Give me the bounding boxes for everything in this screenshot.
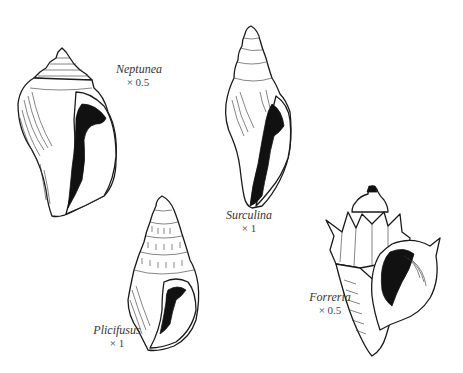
- forreria-shell-drawing: [326, 186, 440, 356]
- forreria-scale: × 0.5: [308, 304, 352, 317]
- forreria-name: Forreria: [308, 291, 352, 304]
- surculina-name: Surculina: [224, 209, 274, 222]
- neptunea-label: Neptunea × 0.5: [116, 63, 160, 89]
- neptunea-scale: × 0.5: [116, 76, 160, 89]
- surculina-scale: × 1: [224, 222, 274, 235]
- forreria-label: Forreria × 0.5: [308, 291, 352, 317]
- neptunea-name: Neptunea: [116, 63, 160, 76]
- plicifusus-label: Plicifusus × 1: [92, 324, 142, 350]
- surculina-label: Surculina × 1: [224, 209, 274, 235]
- plicifusus-scale: × 1: [92, 337, 142, 350]
- shell-plate-illustration: [0, 0, 463, 373]
- surculina-shell-drawing: [226, 26, 291, 208]
- neptunea-shell-drawing: [18, 48, 116, 217]
- plicifusus-name: Plicifusus: [92, 324, 142, 337]
